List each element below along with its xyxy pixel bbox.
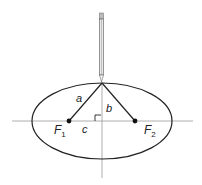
ellipse-diagram: a b c F1 F2 [0, 0, 202, 185]
label-c: c [82, 123, 88, 135]
right-angle-marker [95, 115, 101, 121]
focus-1-point [67, 119, 72, 124]
focus-2-point [133, 119, 138, 124]
label-a: a [76, 92, 82, 104]
pencil-icon [100, 13, 104, 82]
label-f1: F1 [54, 123, 66, 139]
label-b: b [106, 102, 112, 114]
label-f2: F2 [144, 123, 156, 139]
